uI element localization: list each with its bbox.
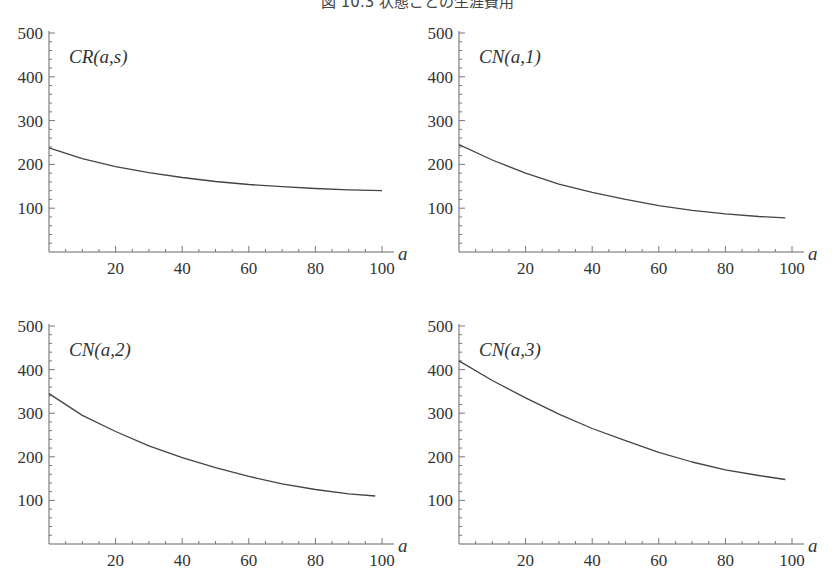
data-curve xyxy=(49,394,375,496)
y-tick-label: 200 xyxy=(18,155,44,174)
chart-panel-cr: 20406080100100200300400500aCR(a,s) xyxy=(18,24,408,278)
panel-label: CN(a,1) xyxy=(479,46,541,68)
chart-panel-cn2: 20406080100100200300400500aCN(a,2) xyxy=(18,317,408,570)
y-tick-label: 300 xyxy=(428,404,454,423)
y-tick-label: 100 xyxy=(18,199,44,218)
y-tick-label: 500 xyxy=(428,24,454,43)
x-tick-label: 100 xyxy=(779,259,805,278)
x-tick-label: 60 xyxy=(240,551,257,570)
x-tick-label: 20 xyxy=(517,551,534,570)
x-tick-label: 40 xyxy=(584,259,601,278)
chart-panel-cn1: 20406080100100200300400500aCN(a,1) xyxy=(428,24,818,278)
y-tick-label: 200 xyxy=(428,448,454,467)
x-axis-label: a xyxy=(398,535,408,556)
y-tick-label: 200 xyxy=(18,448,44,467)
x-tick-label: 80 xyxy=(717,259,734,278)
x-axis-label: a xyxy=(808,535,818,556)
x-tick-label: 100 xyxy=(369,259,395,278)
y-tick-label: 300 xyxy=(18,112,44,131)
x-tick-label: 40 xyxy=(174,259,191,278)
x-tick-label: 40 xyxy=(584,551,601,570)
y-tick-label: 400 xyxy=(18,68,44,87)
x-tick-label: 100 xyxy=(369,551,395,570)
y-tick-label: 100 xyxy=(428,199,454,218)
x-tick-label: 20 xyxy=(107,551,124,570)
x-tick-label: 80 xyxy=(307,551,324,570)
y-tick-label: 300 xyxy=(18,404,44,423)
x-axis-label: a xyxy=(808,243,818,264)
y-tick-label: 100 xyxy=(18,491,44,510)
data-curve xyxy=(49,148,382,191)
x-tick-label: 60 xyxy=(650,551,667,570)
y-tick-label: 300 xyxy=(428,112,454,131)
x-tick-label: 80 xyxy=(717,551,734,570)
x-tick-label: 60 xyxy=(240,259,257,278)
y-tick-label: 400 xyxy=(428,361,454,380)
data-curve xyxy=(459,361,785,480)
y-tick-label: 400 xyxy=(18,361,44,380)
x-tick-label: 80 xyxy=(307,259,324,278)
panel-label: CN(a,2) xyxy=(69,339,131,361)
chart-panel-cn3: 20406080100100200300400500aCN(a,3) xyxy=(428,317,818,570)
y-tick-label: 400 xyxy=(428,68,454,87)
y-tick-label: 500 xyxy=(18,24,44,43)
y-tick-label: 500 xyxy=(428,317,454,336)
data-curve xyxy=(459,145,785,218)
x-tick-label: 40 xyxy=(174,551,191,570)
panel-label: CN(a,3) xyxy=(479,339,541,361)
y-tick-label: 500 xyxy=(18,317,44,336)
y-tick-label: 100 xyxy=(428,491,454,510)
x-axis-label: a xyxy=(398,243,408,264)
x-tick-label: 20 xyxy=(517,259,534,278)
chart-grid: 20406080100100200300400500aCR(a,s) 20406… xyxy=(0,0,835,571)
panel-label: CR(a,s) xyxy=(69,46,128,68)
y-tick-label: 200 xyxy=(428,155,454,174)
x-tick-label: 100 xyxy=(779,551,805,570)
x-tick-label: 60 xyxy=(650,259,667,278)
x-tick-label: 20 xyxy=(107,259,124,278)
